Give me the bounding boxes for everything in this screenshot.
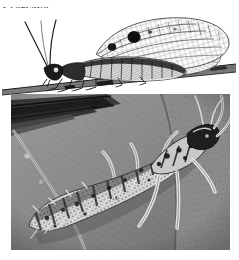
photo-vignette [11, 94, 230, 250]
figure-page: Lacewing [0, 0, 239, 260]
adult-lacewing-illustration [0, 8, 239, 96]
compound-eye [54, 68, 59, 73]
wing-spot-major [128, 31, 141, 43]
wing-spot-minor [108, 43, 116, 51]
larva-photograph [11, 94, 230, 250]
